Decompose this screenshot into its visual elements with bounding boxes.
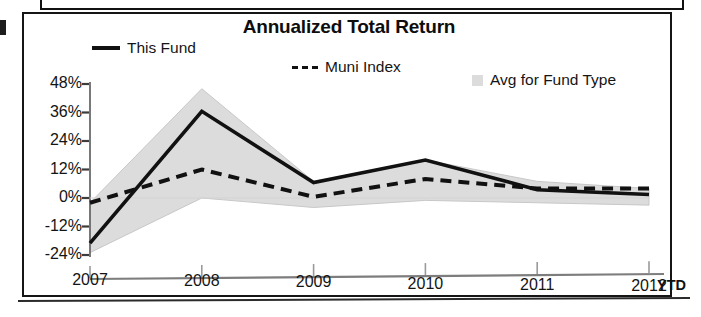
y-axis-label: 36% [24, 103, 82, 121]
scan-artifact-left-mark [0, 20, 6, 35]
scan-artifact-top-box [40, 0, 684, 10]
x-axis-label: 2011 [502, 276, 572, 294]
x-axis-label: 2008 [167, 272, 237, 290]
x-axis-label: 2010 [390, 275, 460, 293]
y-axis-label: 0% [24, 188, 82, 206]
x-axis-ytd-note: YTD [657, 277, 686, 293]
x-axis-label: 2007 [55, 271, 125, 289]
annualized-total-return-chart-panel: Annualized Total Return This Fund Muni I… [22, 12, 672, 297]
y-axis-label: -12% [24, 217, 82, 235]
y-axis-label: 48% [24, 74, 82, 92]
plot-area [24, 14, 674, 299]
y-axis-label: -24% [24, 245, 82, 263]
x-axis-label: 2009 [279, 273, 349, 291]
y-axis-label: 12% [24, 160, 82, 178]
y-axis-label: 24% [24, 131, 82, 149]
